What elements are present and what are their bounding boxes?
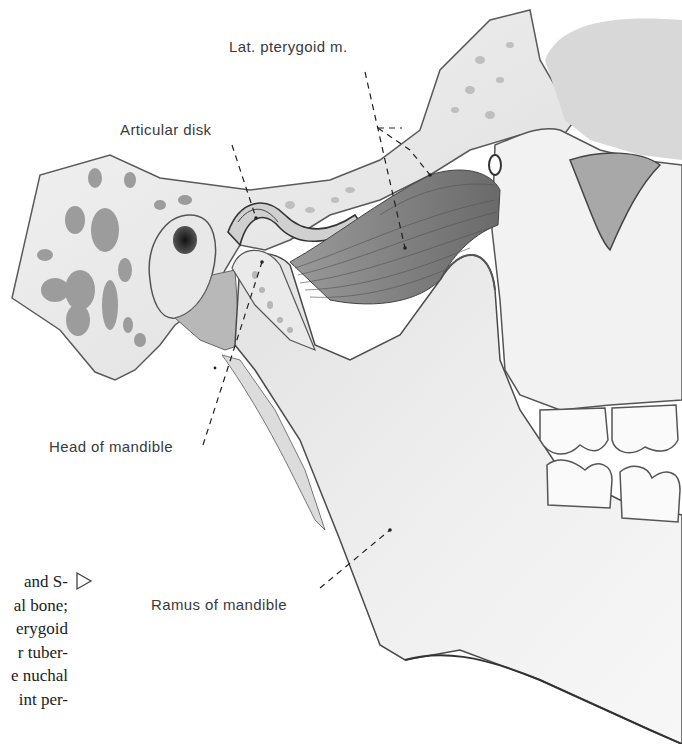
triangle-pointer-icon	[75, 571, 93, 591]
label-lat-pterygoid: Lat. pterygoid m.	[229, 38, 348, 55]
tmj-illustration	[0, 0, 682, 744]
caption-line: e nuchal	[0, 664, 90, 688]
label-head-of-mandible: Head of mandible	[49, 438, 173, 455]
label-ramus-of-mandible: Ramus of mandible	[151, 596, 287, 613]
caption-line: al bone;	[0, 594, 90, 618]
caption-fragment: and S- al bone; erygoid r tuber- e nucha…	[0, 570, 90, 711]
anatomical-figure: Lat. pterygoid m. Articular disk Head of…	[0, 0, 682, 744]
caption-line: r tuber-	[0, 641, 90, 665]
teeth	[540, 405, 680, 522]
label-articular-disk: Articular disk	[120, 121, 211, 138]
caption-line: int per-	[0, 688, 90, 712]
caption-line: erygoid	[0, 617, 90, 641]
